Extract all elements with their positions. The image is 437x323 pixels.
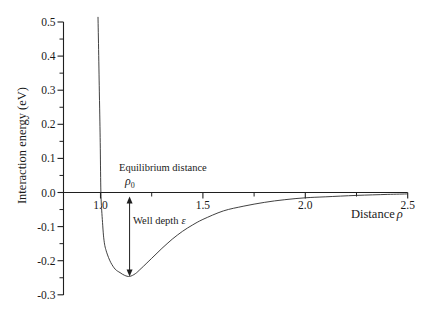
equilibrium-distance-label: Equilibrium distance (119, 162, 207, 173)
y-tick-label: 0.4 (41, 50, 56, 62)
y-tick-label: -0.1 (37, 221, 55, 233)
figure: 0.50.40.30.20.10.0-0.1-0.2-0.31.01.52.02… (0, 0, 437, 323)
rho-subscript: 0 (131, 181, 135, 190)
arrowhead-up-icon (127, 196, 133, 203)
potential-curve (98, 17, 408, 277)
rho0-label: ρ0 (125, 174, 135, 190)
y-tick-label: -0.2 (37, 255, 55, 267)
y-tick-label: 0.3 (41, 84, 56, 96)
x-axis-title-text: Distance (351, 207, 395, 221)
y-tick-label: 0.1 (41, 152, 56, 164)
x-tick-label: 2.0 (298, 199, 313, 211)
y-tick-label: -0.3 (37, 289, 55, 301)
y-axis-title: Interaction energy (eV) (15, 56, 32, 236)
chart-canvas: 0.50.40.30.20.10.0-0.1-0.2-0.31.01.52.02… (0, 0, 437, 323)
epsilon-symbol: ε (182, 215, 186, 226)
y-tick-label: 0.5 (41, 16, 56, 28)
x-tick-label: 1.5 (196, 199, 211, 211)
well-depth-label: Well depthε (133, 215, 186, 226)
well-depth-text: Well depth (133, 215, 179, 226)
x-tick-label: 1.0 (93, 199, 108, 211)
y-tick-label: 0.0 (41, 187, 56, 199)
y-tick-label: 0.2 (41, 118, 56, 130)
x-axis-title: Distanceρ (351, 207, 403, 222)
x-axis-rho-symbol: ρ (397, 207, 403, 221)
